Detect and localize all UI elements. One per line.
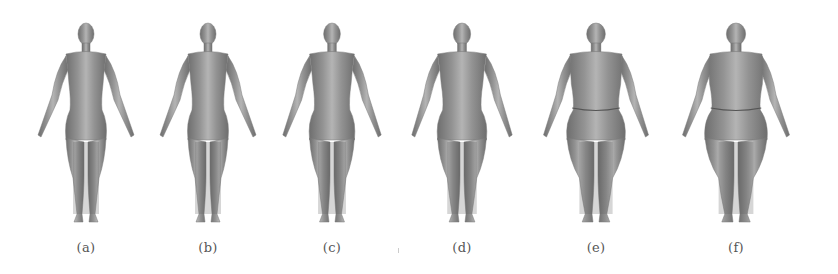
body-model-image: [516, 0, 676, 230]
subfigure-caption: (d): [452, 240, 471, 255]
subfigure-caption: (a): [77, 240, 96, 255]
subfigure-caption: (c): [323, 240, 341, 255]
figure-panel: [516, 0, 676, 274]
subfigure-caption: (b): [198, 240, 217, 255]
stray-mark: [398, 248, 399, 253]
subfigure-caption: (e): [587, 240, 606, 255]
body-model-image: [656, 0, 816, 230]
figure-panel: [656, 0, 816, 274]
subfigure-caption: (f): [728, 240, 744, 255]
